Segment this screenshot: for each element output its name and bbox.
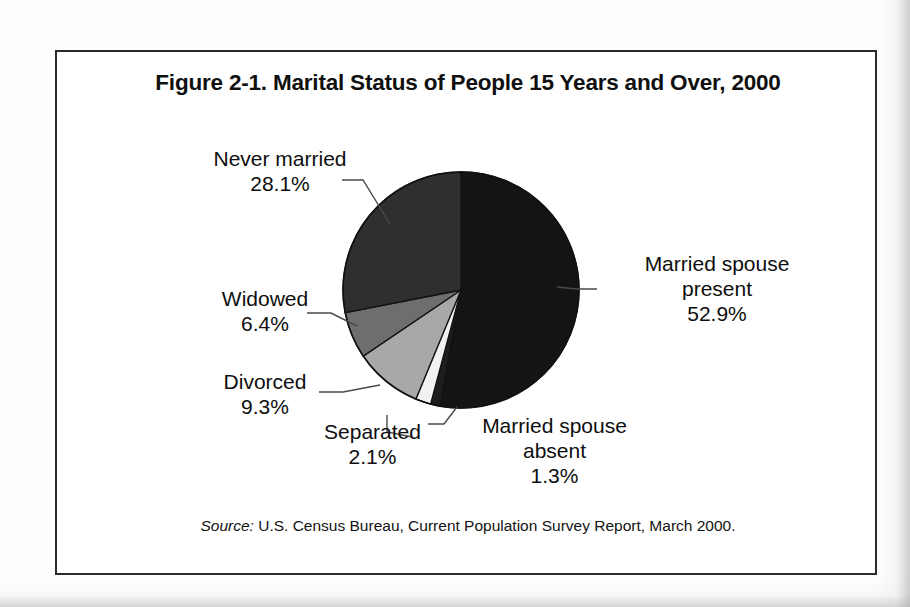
slice-label-separated: Separated 2.1%	[285, 420, 460, 470]
slice-label-divorced-value: 9.3%	[175, 395, 355, 420]
slice-label-married-spouse-absent-value: 1.3%	[447, 464, 662, 489]
slice-label-married-spouse-present-line1: Married spouse	[602, 252, 832, 277]
slice-label-never-married-value: 28.1%	[175, 172, 385, 197]
slice-label-married-spouse-absent-line1: Married spouse	[447, 414, 662, 439]
slice-label-separated-value: 2.1%	[285, 445, 460, 470]
slice-label-divorced: Divorced 9.3%	[175, 370, 355, 420]
slice-label-married-spouse-absent: Married spouse absent 1.3%	[447, 414, 662, 488]
slice-label-widowed-name: Widowed	[175, 287, 355, 312]
figure-frame: Figure 2-1. Marital Status of People 15 …	[55, 50, 877, 575]
slice-label-widowed: Widowed 6.4%	[175, 287, 355, 337]
source-prefix: Source:	[200, 517, 253, 534]
slice-label-married-spouse-present: Married spouse present 52.9%	[602, 252, 832, 326]
slice-label-divorced-name: Divorced	[175, 370, 355, 395]
slice-label-widowed-value: 6.4%	[175, 312, 355, 337]
slice-label-married-spouse-present-value: 52.9%	[602, 302, 832, 327]
slice-label-married-spouse-present-line2: present	[602, 277, 832, 302]
slice-label-separated-name: Separated	[285, 420, 460, 445]
slice-label-married-spouse-absent-line2: absent	[447, 439, 662, 464]
pie-slice-group	[343, 172, 579, 408]
slice-label-never-married: Never married 28.1%	[175, 147, 385, 197]
slice-label-never-married-name: Never married	[175, 147, 385, 172]
source-text: U.S. Census Bureau, Current Population S…	[254, 517, 736, 534]
figure-source-note: Source: U.S. Census Bureau, Current Popu…	[57, 517, 879, 535]
